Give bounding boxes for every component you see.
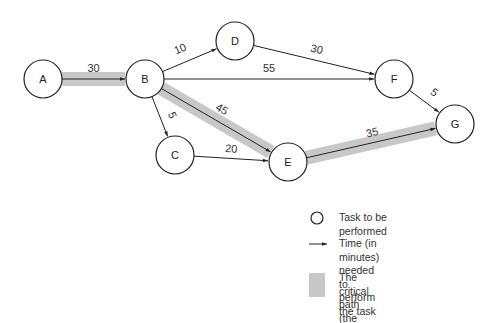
node-b: B	[126, 60, 164, 98]
node-g: G	[436, 105, 474, 143]
edge-label-b-d: 10	[172, 41, 188, 57]
legend-task-text: Task to be performed	[339, 211, 387, 238]
edge-label-b-f: 55	[263, 62, 275, 74]
node-label: C	[171, 149, 179, 161]
node-label: E	[284, 156, 291, 168]
pert-diagram: 3010554552030535 ABCDEFG	[0, 0, 500, 323]
edge-label-f-g: 5	[428, 85, 440, 98]
edge-c-e	[194, 156, 268, 161]
edge-b-d	[163, 49, 217, 72]
node-d: D	[216, 22, 254, 60]
edge-label-b-c: 5	[166, 110, 179, 120]
edge-label-d-f: 30	[310, 42, 325, 57]
node-f: F	[375, 60, 413, 98]
edge-label-a-b: 30	[87, 62, 99, 74]
edge-b-c	[152, 97, 168, 137]
node-label: F	[391, 73, 398, 85]
legend-node-icon	[311, 212, 323, 224]
node-a: A	[24, 60, 62, 98]
legend-critical-swatch	[309, 273, 325, 297]
node-label: G	[451, 118, 460, 130]
node-c: C	[156, 136, 194, 174]
node-label: D	[231, 35, 239, 47]
edge-label-c-e: 20	[225, 142, 238, 155]
node-e: E	[269, 143, 307, 181]
legend-critical-text: The critical path (the longest time sequ…	[339, 271, 385, 323]
node-label: B	[141, 73, 148, 85]
node-label: A	[39, 73, 47, 85]
